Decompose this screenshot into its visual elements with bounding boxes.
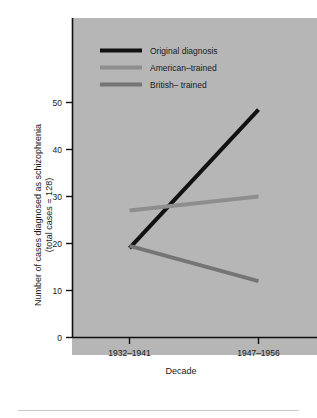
series-line-original-diagnosis — [130, 110, 259, 249]
y-axis-title-line1: Number of cases diagnosed as schizophren… — [33, 124, 43, 306]
chart-canvas: 0 10 20 30 40 50 1932–1941 1947–1956 Dec… — [0, 0, 317, 418]
x-tick-label-left: 1932–1941 — [108, 348, 151, 358]
figure: 0 10 20 30 40 50 1932–1941 1947–1956 Dec… — [0, 0, 317, 418]
x-tick-label-right: 1947–1956 — [237, 348, 280, 358]
y-tick-label-10: 10 — [53, 286, 63, 296]
y-tick-label-40: 40 — [53, 145, 63, 155]
y-axis-title-line2: (total cases = 128) — [44, 178, 54, 252]
y-axis-ticks — [66, 103, 73, 338]
legend-label-american-trained: American–trained — [150, 63, 217, 73]
legend: Original diagnosis American–trained Brit… — [100, 46, 218, 90]
legend-label-british-trained: British– trained — [150, 80, 207, 90]
series-line-british-trained — [130, 246, 259, 281]
x-axis-title: Decade — [165, 366, 196, 376]
series-line-american-trained — [130, 197, 259, 211]
bottom-divider — [18, 410, 299, 411]
y-tick-label-0: 0 — [57, 333, 62, 343]
x-axis-tick-labels: 1932–1941 1947–1956 — [108, 348, 280, 358]
y-tick-label-50: 50 — [53, 98, 63, 108]
x-axis-ticks — [130, 338, 259, 345]
legend-label-original-diagnosis: Original diagnosis — [150, 46, 218, 56]
